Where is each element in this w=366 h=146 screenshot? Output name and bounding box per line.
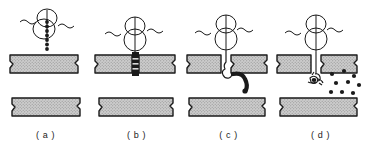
panel-d-graphic xyxy=(275,0,366,146)
membrane-wave-right-icon xyxy=(147,29,163,33)
upper-bar-left xyxy=(95,55,132,73)
panel-a: ( a ) xyxy=(0,0,91,146)
figure-canvas: ( a ) xyxy=(0,0,366,146)
panel-label-c: ( c ) xyxy=(183,130,274,140)
panel-a-graphic xyxy=(0,0,91,146)
bead-chain xyxy=(233,74,247,90)
membrane-wave-left-icon xyxy=(20,20,36,24)
lower-bar xyxy=(12,98,80,116)
panel-c: ( c ) xyxy=(183,0,274,146)
fragment-core xyxy=(312,78,317,82)
chain-end-bead xyxy=(242,88,247,93)
bead-chain xyxy=(45,20,49,51)
membrane-wave-right-icon xyxy=(327,28,343,32)
panel-b: ( b ) xyxy=(91,0,182,146)
panel-c-graphic xyxy=(183,0,274,146)
cell-lobe-lower-icon xyxy=(33,19,55,39)
membrane-wave-right-icon xyxy=(237,28,253,32)
lower-bar xyxy=(280,98,357,116)
lower-bar xyxy=(189,98,265,116)
membrane-wave-right-icon xyxy=(58,24,74,28)
lower-bar xyxy=(99,98,173,116)
panel-label-d: ( d ) xyxy=(275,130,366,140)
upper-bar-left xyxy=(277,55,311,73)
upper-bar-right xyxy=(231,55,267,73)
upper-bar-right xyxy=(321,55,357,73)
membrane-wave-left-icon xyxy=(195,31,211,35)
upper-bar-left xyxy=(187,55,221,73)
panel-b-graphic xyxy=(91,0,182,146)
dark-penetration-segment xyxy=(132,52,139,76)
panel-d: ( d ) xyxy=(275,0,366,146)
membrane-wave-left-icon xyxy=(105,32,121,36)
panel-label-b: ( b ) xyxy=(91,130,182,140)
membrane-wave-left-icon xyxy=(285,31,301,35)
upper-bar xyxy=(10,55,78,73)
panel-label-a: ( a ) xyxy=(0,130,91,140)
upper-bar-right xyxy=(139,55,175,73)
